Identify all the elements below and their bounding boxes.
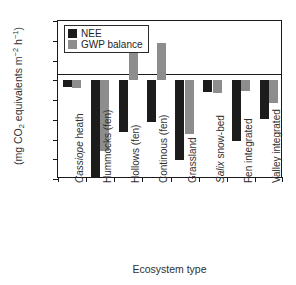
y-tick [53, 41, 58, 42]
legend-label-nee: NEE [81, 29, 102, 39]
y-tick [53, 140, 58, 141]
legend-swatch-gwp-balance [68, 40, 77, 49]
bar-nee-2 [119, 80, 128, 132]
x-category-label-5: Salix snow-bed [216, 115, 226, 183]
y-tick [53, 21, 58, 22]
y-axis-title-text: (mg CO2 equivalents m−2 h−1) [12, 27, 24, 165]
y-axis-title: (mg CO2 equivalents m−2 h−1) [11, 11, 27, 181]
bar-gwp-4 [185, 80, 194, 134]
x-category-label-1: Hummocks (fen) [103, 110, 113, 183]
x-tick [255, 177, 256, 182]
x-category-label-2: Hollows (fen) [131, 125, 141, 183]
x-tick [171, 177, 172, 182]
bar-gwp-5 [213, 80, 222, 93]
zero-line [58, 74, 281, 75]
x-axis-title: Ecosystem type [57, 263, 282, 275]
x-tick [199, 177, 200, 182]
bar-gwp-2 [129, 51, 138, 80]
x-tick [86, 177, 87, 182]
bar-nee-0 [63, 80, 72, 87]
bar-gwp-6 [241, 80, 250, 91]
legend: NEE GWP balance [64, 25, 149, 53]
legend-item-nee: NEE [68, 28, 143, 39]
bar-gwp-3 [157, 43, 166, 80]
y-tick [53, 159, 58, 160]
bar-nee-1 [91, 80, 100, 177]
bar-nee-7 [260, 80, 269, 118]
x-category-label-4: Grassland [188, 137, 198, 183]
y-tick [53, 100, 58, 101]
y-tick [53, 120, 58, 121]
bar-gwp-0 [72, 80, 81, 88]
legend-swatch-nee [68, 29, 77, 38]
bar-nee-5 [203, 80, 212, 92]
x-tick [282, 177, 283, 182]
bar-nee-4 [175, 80, 184, 159]
legend-item-gwp-balance: GWP balance [68, 39, 143, 50]
x-tick [142, 177, 143, 182]
x-tick [227, 177, 228, 182]
y-tick [53, 80, 58, 81]
figure: (mg CO2 equivalents m−2 h−1) 150100500−5… [0, 0, 296, 285]
x-tick [58, 177, 59, 182]
x-category-label-7: Valley integrated [272, 109, 282, 183]
bar-nee-3 [147, 80, 156, 121]
x-category-label-0: Cassiope heath [75, 113, 85, 183]
x-category-label-6: Fen integrated [244, 119, 254, 184]
legend-label-gwp-balance: GWP balance [81, 40, 143, 50]
bar-gwp-7 [269, 80, 278, 103]
bar-nee-6 [232, 80, 241, 140]
x-category-label-3: Continous (fen) [159, 115, 169, 183]
y-tick [53, 61, 58, 62]
x-tick [114, 177, 115, 182]
